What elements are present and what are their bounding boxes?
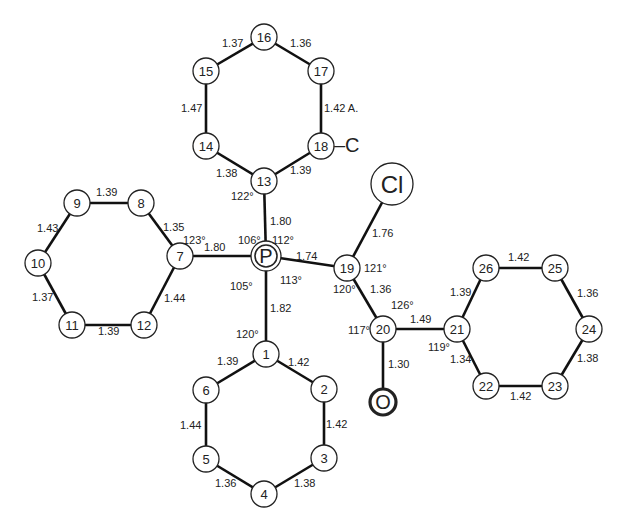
atom-25: 25 xyxy=(542,255,568,281)
svg-text:5: 5 xyxy=(202,452,209,467)
atom-18: 18 xyxy=(308,133,334,159)
bond-length-18-13: 1.39 xyxy=(290,164,311,176)
atoms-layer: P123456789101112131415161718192021222324… xyxy=(25,24,602,507)
bond-length-23-22: 1.42 xyxy=(510,390,531,402)
bond-angle-label: 112° xyxy=(272,234,294,246)
bond-length-24-23: 1.38 xyxy=(577,352,598,364)
svg-text:6: 6 xyxy=(202,383,209,398)
atom-26: 26 xyxy=(473,255,499,281)
atom-4: 4 xyxy=(251,481,277,507)
atom-5: 5 xyxy=(193,446,219,472)
svg-text:26: 26 xyxy=(479,261,493,276)
svg-text:21: 21 xyxy=(450,322,464,337)
bond-angle-label: 123° xyxy=(183,234,206,246)
bond-angle-label: 126° xyxy=(391,299,414,311)
svg-text:17: 17 xyxy=(314,64,328,79)
atom-8: 8 xyxy=(128,190,154,216)
svg-text:10: 10 xyxy=(31,256,45,271)
atom-6: 6 xyxy=(193,377,219,403)
bond-length-9-10: 1.43 xyxy=(37,222,58,234)
svg-text:3: 3 xyxy=(320,451,327,466)
bond-length-21-26: 1.39 xyxy=(450,286,471,298)
bond-length-4-5: 1.36 xyxy=(215,477,236,489)
bond-angle-label: 120° xyxy=(236,328,259,340)
atom-10: 10 xyxy=(25,250,51,276)
atom-2: 2 xyxy=(311,376,337,402)
bond-length-5-6: 1.44 xyxy=(180,419,201,431)
bond-length-22-21: 1.34 xyxy=(450,353,471,365)
atom-O: O xyxy=(370,389,396,415)
bond-angle-label: 121° xyxy=(364,262,387,274)
bond-length-12-7: 1.44 xyxy=(164,292,185,304)
bond-length-20-O: 1.30 xyxy=(388,358,409,370)
bond-length-25-24: 1.36 xyxy=(577,287,598,299)
bond-length-1-2: 1.42 xyxy=(288,356,309,368)
bond-length-19-20: 1.36 xyxy=(370,283,391,295)
svg-text:Cl: Cl xyxy=(381,171,404,198)
svg-text:9: 9 xyxy=(73,196,80,211)
bond-angle-label: 122° xyxy=(231,190,254,202)
bond-angle-label: 119° xyxy=(428,341,450,353)
svg-text:4: 4 xyxy=(260,487,267,502)
atom-20: 20 xyxy=(370,316,396,342)
atom-17: 17 xyxy=(308,58,334,84)
atom-21: 21 xyxy=(444,316,470,342)
bond-angle-label: 113° xyxy=(280,274,302,286)
bond-length-2-3: 1.42 xyxy=(326,418,347,430)
svg-text:15: 15 xyxy=(199,64,213,79)
bond-length-10-11: 1.37 xyxy=(32,291,53,303)
atom-19: 19 xyxy=(334,255,360,281)
bond-length-3-4: 1.38 xyxy=(294,477,315,489)
svg-text:2: 2 xyxy=(320,382,327,397)
bond-angle-label: 120° xyxy=(333,283,356,295)
bond-length-19-Cl: 1.76 xyxy=(372,227,393,239)
svg-text:25: 25 xyxy=(548,261,562,276)
svg-text:O: O xyxy=(375,391,391,413)
svg-text:19: 19 xyxy=(340,261,354,276)
bond-length-P-13: 1.80 xyxy=(270,215,291,227)
molecular-structure-diagram: P123456789101112131415161718192021222324… xyxy=(0,0,619,525)
atom-3: 3 xyxy=(311,445,337,471)
atom-24: 24 xyxy=(576,316,602,342)
atom-12: 12 xyxy=(131,312,157,338)
atom-14: 14 xyxy=(193,133,219,159)
svg-text:11: 11 xyxy=(65,318,79,333)
svg-text:20: 20 xyxy=(376,322,390,337)
bond-length-7-8: 1.35 xyxy=(163,221,184,233)
bond-length-P-19: 1.74 xyxy=(296,250,317,262)
svg-text:18: 18 xyxy=(314,139,328,154)
svg-text:23: 23 xyxy=(548,379,562,394)
methyl-substituent-label: –C xyxy=(334,134,360,156)
bond-length-15-16: 1.37 xyxy=(222,37,243,49)
atom-11: 11 xyxy=(59,312,85,338)
svg-text:12: 12 xyxy=(137,318,151,333)
bond-angle-label: 117° xyxy=(348,324,370,336)
atom-7: 7 xyxy=(167,243,193,269)
bond-length-8-9: 1.39 xyxy=(96,186,117,198)
bond-length-14-15: 1.47 xyxy=(181,102,202,114)
bond-angle-label: 105° xyxy=(230,280,253,292)
bond-length-11-12: 1.39 xyxy=(98,325,119,337)
atom-9: 9 xyxy=(64,190,90,216)
atom-16: 16 xyxy=(251,24,277,50)
bond-length-17-18: 1.42 A. xyxy=(324,102,358,114)
atom-15: 15 xyxy=(193,58,219,84)
atom-22: 22 xyxy=(473,373,499,399)
svg-text:16: 16 xyxy=(257,30,271,45)
bond-length-13-14: 1.38 xyxy=(216,167,237,179)
bonds-layer xyxy=(38,37,589,494)
svg-text:8: 8 xyxy=(137,196,144,211)
bond-length-6-1: 1.39 xyxy=(217,355,238,367)
bond-length-P-7: 1.80 xyxy=(204,241,225,253)
atom-1: 1 xyxy=(253,341,279,367)
svg-text:14: 14 xyxy=(199,139,213,154)
atom-13: 13 xyxy=(251,168,277,194)
svg-text:7: 7 xyxy=(176,249,183,264)
svg-text:1: 1 xyxy=(262,347,269,362)
bond-length-20-21: 1.49 xyxy=(410,313,431,325)
bond-angle-label: 106° xyxy=(238,234,261,246)
svg-text:22: 22 xyxy=(479,379,493,394)
bond-length-P-1: 1.82 xyxy=(270,302,291,314)
atom-23: 23 xyxy=(542,373,568,399)
bond-length-16-17: 1.36 xyxy=(290,37,311,49)
